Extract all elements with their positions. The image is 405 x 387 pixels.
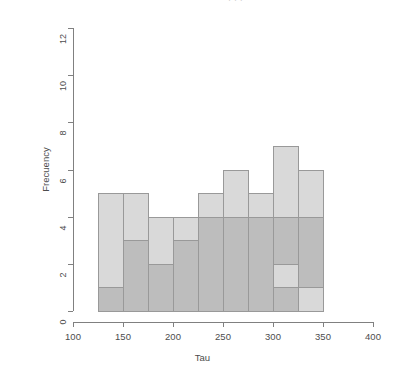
y-axis-tick-label: 4: [58, 216, 68, 240]
y-axis-tick: [68, 28, 73, 29]
x-axis-title: Tau: [0, 352, 405, 363]
x-axis-tick-label: 100: [53, 331, 93, 342]
x-axis-tick: [323, 322, 324, 327]
histogram-bar-dark: [173, 240, 199, 312]
plot-area: 024681012100150200250300350400: [0, 0, 405, 387]
x-axis-tick-label: 300: [253, 331, 293, 342]
histogram-bar-dark: [198, 217, 224, 312]
y-axis-tick-label: 10: [58, 74, 68, 98]
x-axis-tick-label: 250: [203, 331, 243, 342]
y-axis-tick: [68, 75, 73, 76]
histogram-bar-dark: [248, 217, 274, 312]
x-axis-tick: [73, 322, 74, 327]
y-axis-tick: [68, 170, 73, 171]
y-axis-tick: [68, 217, 73, 218]
x-axis-tick: [273, 322, 274, 327]
y-axis-tick: [68, 122, 73, 123]
histogram-figure: · · · Frecuency 024681012100150200250300…: [0, 0, 405, 387]
histogram-bar-dark: [148, 264, 174, 312]
histogram-bar-dark-tail: [273, 287, 299, 312]
x-axis-tick-label: 200: [153, 331, 193, 342]
x-axis-tick-label: 150: [103, 331, 143, 342]
histogram-bar-dark: [98, 287, 124, 312]
x-axis-tick-label: 350: [303, 331, 343, 342]
histogram-bar-dark: [223, 217, 249, 312]
histogram-bar-dark: [123, 240, 149, 312]
x-axis-tick: [223, 322, 224, 327]
x-axis-tick: [373, 322, 374, 327]
y-axis-tick-label: 8: [58, 121, 68, 145]
x-axis-tick: [173, 322, 174, 327]
y-axis-tick-label: 12: [58, 27, 68, 51]
x-axis-tick-label: 400: [353, 331, 393, 342]
x-axis-tick: [123, 322, 124, 327]
y-axis-tick: [68, 264, 73, 265]
y-axis-tick: [68, 311, 73, 312]
histogram-bar-light-tail: [298, 287, 324, 312]
y-axis-tick-label: 2: [58, 263, 68, 287]
y-axis-tick-label: 6: [58, 169, 68, 193]
